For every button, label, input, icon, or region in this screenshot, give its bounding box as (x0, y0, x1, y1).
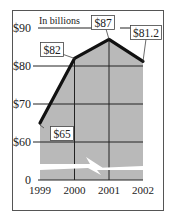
area-fill (40, 39, 143, 180)
x-tick-label: 2002 (132, 184, 154, 196)
line-area-chart: 0$60$70$80$90 1999200020012002 In billio… (0, 0, 174, 220)
label-leader (143, 39, 146, 61)
x-tick-label: 2000 (64, 184, 87, 196)
y-tick-label: $80 (13, 59, 31, 73)
x-axis-labels: 1999200020012002 (29, 184, 154, 196)
label-leader (106, 29, 109, 39)
y-tick-label: $60 (13, 135, 31, 149)
data-label: $82 (43, 44, 61, 56)
data-label: $65 (53, 128, 71, 140)
units-subtitle: In billions (39, 15, 80, 26)
y-tick-label: $70 (13, 97, 31, 111)
x-tick-label: 1999 (29, 184, 52, 196)
y-axis-labels: 0$60$70$80$90 (13, 21, 31, 187)
data-label: $81.2 (133, 27, 159, 39)
data-label: $87 (94, 17, 112, 29)
y-tick-label: $90 (13, 21, 31, 35)
x-tick-label: 2001 (98, 184, 120, 196)
